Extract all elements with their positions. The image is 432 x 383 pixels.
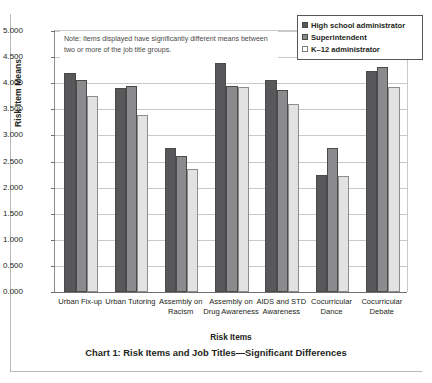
bar (215, 63, 226, 292)
bar-group (257, 31, 307, 292)
y-tick-mark (51, 188, 55, 189)
bar (165, 148, 176, 292)
chart-figure: 0.0000.5001.0001.5002.0002.5003.0003.500… (0, 0, 432, 383)
chart-caption: Chart 1: Risk Items and Job Titles—Signi… (10, 347, 422, 358)
y-tick-label: 1.000 (0, 236, 23, 244)
bar-series-container (56, 31, 408, 292)
legend-swatch-icon (302, 34, 308, 40)
bar (115, 88, 126, 292)
legend-item[interactable]: High school administrator (302, 19, 418, 31)
bar-group (307, 31, 357, 292)
y-tick-mark (51, 83, 55, 84)
bar-group (106, 31, 156, 292)
y-tick-label: 3.000 (0, 131, 23, 139)
y-tick-mark (51, 135, 55, 136)
y-tick-mark (51, 266, 55, 267)
y-tick-label: 2.500 (0, 158, 23, 166)
y-tick-mark (51, 214, 55, 215)
figure-frame-left-rule (10, 14, 11, 372)
bar (187, 169, 198, 292)
bar (316, 175, 327, 292)
bar (377, 67, 388, 292)
legend-label: High school administrator (311, 21, 405, 30)
chart-note: Note: Items displayed have significantly… (60, 31, 278, 58)
bar (366, 71, 377, 292)
bar (64, 73, 75, 292)
y-tick-mark (51, 240, 55, 241)
bar (288, 104, 299, 292)
chart-legend: High school administratorSuperintendentK… (297, 15, 423, 60)
y-tick-mark (51, 162, 55, 163)
figure-frame-bottom-rule (10, 371, 422, 372)
y-tick-mark (51, 31, 55, 32)
bar-group (56, 31, 106, 292)
y-tick-label: 0.500 (0, 262, 23, 270)
y-axis-title: Risk Item Means (13, 59, 23, 127)
legend-label: Superintendent (311, 33, 367, 42)
bar-group (157, 31, 207, 292)
y-tick-mark (51, 109, 55, 110)
bar (338, 176, 349, 292)
y-tick-label: 0.000 (0, 288, 23, 296)
y-tick-label: 5.000 (0, 27, 23, 35)
legend-item[interactable]: Superintendent (302, 31, 418, 43)
x-axis-baseline (55, 292, 407, 293)
bar (137, 115, 148, 292)
bar (388, 87, 399, 292)
bar (327, 148, 338, 292)
x-axis-title: Risk Items (55, 332, 407, 342)
bar-group (358, 31, 408, 292)
y-tick-label: 1.500 (0, 210, 23, 218)
legend-swatch-icon (302, 46, 308, 52)
y-tick-label: 2.000 (0, 184, 23, 192)
bar (265, 80, 276, 292)
x-category-label: Cocurricular Debate (353, 297, 411, 316)
plot-area: 0.0000.5001.0001.5002.0002.5003.0003.500… (54, 30, 408, 292)
bar (76, 80, 87, 292)
legend-label: K–12 administrator (311, 45, 380, 54)
bar (126, 86, 137, 292)
bar (87, 96, 98, 292)
bar (226, 86, 237, 292)
legend-swatch-icon (302, 22, 308, 28)
bar-group (207, 31, 257, 292)
bar (238, 87, 249, 292)
y-tick-mark (51, 57, 55, 58)
legend-item[interactable]: K–12 administrator (302, 43, 418, 55)
bar (277, 90, 288, 292)
bar (176, 156, 187, 292)
